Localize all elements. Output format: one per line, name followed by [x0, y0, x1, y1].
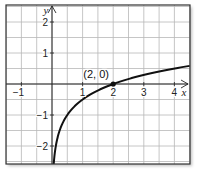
y-axis-label: y [43, 4, 49, 16]
y-tick-label: −1 [37, 110, 49, 121]
x-tick-label: 1 [80, 87, 86, 98]
x-tick-label: 3 [141, 87, 147, 98]
point-annotation: (2, 0) [83, 68, 109, 80]
y-tick-label: 2 [42, 17, 48, 28]
x-axis-label: x [181, 86, 187, 98]
chart: −1123421−1−2xy(2, 0) [0, 0, 197, 175]
x-tick-label: −1 [13, 87, 25, 98]
x-tick-label: 2 [110, 87, 116, 98]
y-tick-label: 1 [42, 48, 48, 59]
y-tick-label: −2 [37, 141, 49, 152]
x-tick-label: 4 [172, 87, 178, 98]
point-marker [111, 81, 116, 86]
